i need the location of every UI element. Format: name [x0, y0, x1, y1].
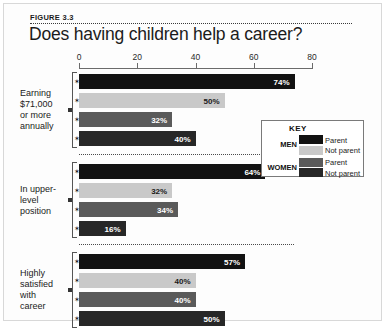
chart-bar: 50%: [79, 93, 225, 108]
legend-title: KEY: [289, 124, 307, 133]
x-axis-line: [79, 68, 313, 69]
x-axis-tick-label: 60: [249, 52, 258, 62]
chart-bar-value-label: 40%: [174, 134, 190, 143]
x-axis-tick-label: 0: [77, 52, 82, 62]
legend-entry-label: Parent: [325, 136, 347, 145]
x-axis-tick: [137, 63, 138, 68]
chart-bar: 74%: [79, 74, 295, 89]
chart-bar: 32%: [79, 112, 172, 127]
category-label-line: annually: [20, 121, 74, 132]
legend-entry-label: Not parent: [325, 169, 360, 178]
x-axis-tick: [254, 63, 255, 68]
group-separator: [79, 244, 294, 245]
chart-bar: 40%: [79, 273, 196, 288]
category-label-line: position: [20, 206, 74, 217]
x-axis-tick: [196, 63, 197, 68]
chart-bar-value-label: 57%: [224, 257, 240, 266]
chart-bar-value-label: 32%: [151, 115, 167, 124]
category-label-line: In upper-: [20, 184, 74, 195]
x-axis-tick: [79, 63, 80, 68]
chart-bar-value-label: 32%: [151, 186, 167, 195]
chart-bar: 64%: [79, 164, 265, 179]
category-label-line: with: [20, 290, 74, 301]
chart-bar: 50%: [79, 311, 225, 326]
category-label-line: Highly: [20, 268, 74, 279]
legend-swatch: [299, 135, 323, 144]
chart-bar: 34%: [79, 202, 178, 217]
legend-group-label: MEN: [263, 140, 297, 149]
chart-bar-value-label: 64%: [244, 167, 260, 176]
x-axis-tick: [312, 63, 313, 68]
legend-swatch: [299, 158, 323, 167]
category-label: In upper-levelposition: [20, 184, 74, 217]
legend-group-label: WOMEN: [263, 163, 297, 172]
chart-bar-value-label: 34%: [157, 205, 173, 214]
category-label-line: level: [20, 195, 74, 206]
chart-bar: 32%: [79, 183, 172, 198]
x-axis-tick-label: 40: [191, 52, 200, 62]
legend-entry-label: Parent: [325, 158, 347, 167]
chart-bar: 57%: [79, 254, 245, 269]
chart-legend: KEY MENParentNot parentWOMENParentNot pa…: [261, 120, 364, 177]
chart-bar: 16%: [79, 221, 126, 236]
chart-bar: 40%: [79, 292, 196, 307]
chart-bar: 40%: [79, 131, 196, 146]
figure-frame: FIGURE 3.3 Does having children help a c…: [3, 3, 382, 321]
legend-swatch: [299, 168, 323, 177]
category-label-line: career: [20, 301, 74, 312]
legend-swatch: [299, 146, 323, 155]
legend-entry-label: Not parent: [325, 146, 360, 155]
category-label: Earning$71,000or moreannually: [20, 88, 74, 132]
chart-bar-value-label: 74%: [274, 77, 290, 86]
x-axis-tick-label: 20: [133, 52, 142, 62]
chart-bar-value-label: 50%: [204, 314, 220, 323]
category-label-line: or more: [20, 110, 74, 121]
chart-bar-value-label: 40%: [174, 276, 190, 285]
chart-bar-value-label: 40%: [174, 295, 190, 304]
chart-bar-value-label: 16%: [105, 224, 121, 233]
category-label-line: Earning: [20, 88, 74, 99]
category-label: Highlysatisfiedwithcareer: [20, 268, 74, 312]
x-axis-tick-label: 80: [307, 52, 316, 62]
category-label-line: $71,000: [20, 99, 74, 110]
chart-bar-value-label: 50%: [204, 96, 220, 105]
category-label-line: satisfied: [20, 279, 74, 290]
